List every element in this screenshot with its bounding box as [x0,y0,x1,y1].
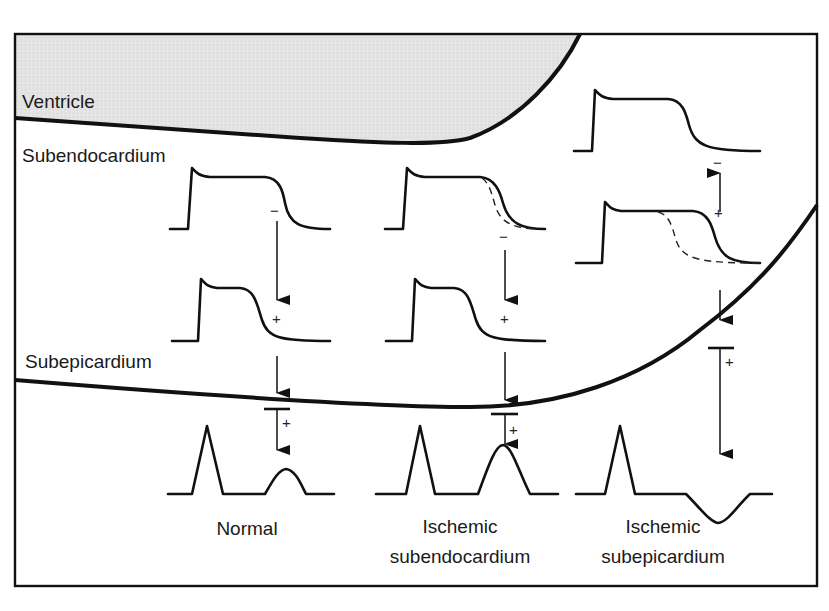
action-potential-shortened-dashed [482,178,535,229]
minus-sign: − [270,202,279,219]
ischemia-diagram: Ventricle Subendocardium Subepicardium −… [0,0,829,611]
action-potential-subepicardial [576,202,760,263]
column-title-ischemic-subendocardium-line2: subendocardium [390,546,530,567]
action-potential-subendocardial [385,168,545,229]
column-title-ischemic-subepicardium-line2: subepicardium [601,546,725,567]
label-subepicardium: Subepicardium [25,351,152,372]
column-title-ischemic-subepicardium-line1: Ischemic [626,516,701,537]
plus-sign: + [725,353,734,370]
ecg-trace-ischemic-subendocardium [376,426,558,494]
label-subendocardium: Subendocardium [22,145,166,166]
column-title-ischemic-subendocardium-line1: Ischemic [423,516,498,537]
plus-sign: + [714,204,723,221]
column-ischemic-subepicardium: − + + Ischemic subepicardium [574,90,772,567]
plus-sign: + [509,421,518,438]
action-potential-subendocardial [170,168,330,229]
plus-sign: + [282,414,291,431]
column-title-normal: Normal [216,518,277,539]
ecg-trace-normal [168,426,334,494]
epicardial-boundary [15,205,817,407]
minus-sign: − [713,154,722,171]
plus-sign: + [500,310,509,327]
plus-sign: + [272,310,281,327]
ecg-trace-ischemic-subepicardium [576,426,772,523]
action-potential-subepicardial [386,279,545,341]
action-potential-subendocardial [574,90,760,151]
column-normal: − + + Normal [168,168,334,539]
label-ventricle: Ventricle [22,91,95,112]
column-ischemic-subendocardium: − + + Ischemic subendocardium [376,168,558,567]
action-potential-subepicardial [172,279,330,341]
minus-sign: − [499,228,508,245]
